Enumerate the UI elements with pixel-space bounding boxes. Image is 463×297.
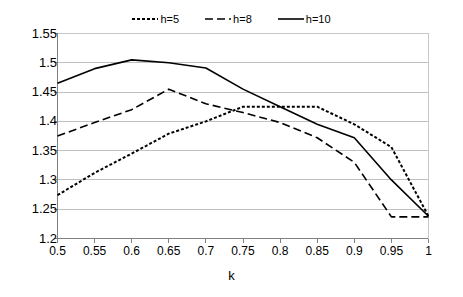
x-tick-label: 0.5 <box>38 245 78 257</box>
x-tick-label: 0.8 <box>260 245 300 257</box>
data-series-lines <box>58 60 429 217</box>
y-tick-label: 1.2 <box>11 232 57 245</box>
x-tick-label: 0.55 <box>75 245 115 257</box>
y-tick-label: 1.45 <box>11 85 57 98</box>
y-tick-label: 1.3 <box>11 173 57 186</box>
x-tick-label: 0.95 <box>371 245 411 257</box>
y-tick-label: 1.25 <box>11 202 57 215</box>
x-tick-label: 0.9 <box>334 245 374 257</box>
y-tick-label: 1.35 <box>11 144 57 157</box>
x-tick-label: 0.75 <box>223 245 263 257</box>
x-tick-label: 0.7 <box>186 245 226 257</box>
line-chart: h=5 h=8 h=10 1.551.51. <box>0 0 463 297</box>
plot-area: 1.551.51.451.41.351.31.251.2 0.50.550.60… <box>0 0 463 297</box>
x-tick-label: 0.6 <box>112 245 152 257</box>
series-line-h5 <box>58 107 429 217</box>
x-axis-title: k <box>0 269 463 282</box>
series-line-h10 <box>58 60 429 216</box>
x-tick-label: 1 <box>409 245 449 257</box>
y-tick-label: 1.5 <box>11 56 57 69</box>
y-tick-label: 1.55 <box>11 27 57 40</box>
x-tick-label: 0.85 <box>297 245 337 257</box>
series-line-h8 <box>58 89 429 217</box>
x-tick-label: 0.65 <box>149 245 189 257</box>
y-tick-label: 1.4 <box>11 114 57 127</box>
